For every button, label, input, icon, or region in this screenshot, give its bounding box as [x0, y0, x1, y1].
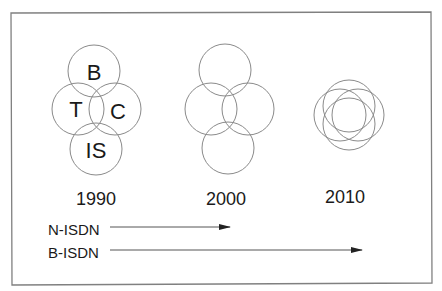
- service-circle: [222, 83, 274, 135]
- stage-2000: 2000: [185, 44, 274, 209]
- year-label: 2010: [325, 187, 365, 207]
- service-circle: [199, 44, 251, 96]
- year-label: 1990: [76, 189, 116, 209]
- circle-label: IS: [86, 138, 107, 163]
- circle-label: B: [87, 60, 102, 85]
- timeline-n-isdn: N-ISDN: [48, 221, 230, 238]
- stages-layer: BTCIS199020002010: [52, 44, 384, 209]
- circle-label: C: [110, 99, 126, 124]
- isdn-evolution-diagram: BTCIS199020002010 N-ISDNB-ISDN: [0, 0, 442, 291]
- timeline-b-isdn: B-ISDN: [48, 244, 362, 261]
- stage-1990: BTCIS1990: [52, 45, 141, 209]
- timelines-layer: N-ISDNB-ISDN: [48, 221, 362, 261]
- timeline-label: B-ISDN: [48, 244, 99, 261]
- year-label: 2000: [206, 189, 246, 209]
- service-circle: [202, 122, 254, 174]
- stage-2010: 2010: [314, 80, 384, 207]
- circle-label: T: [69, 97, 82, 122]
- timeline-label: N-ISDN: [48, 221, 100, 238]
